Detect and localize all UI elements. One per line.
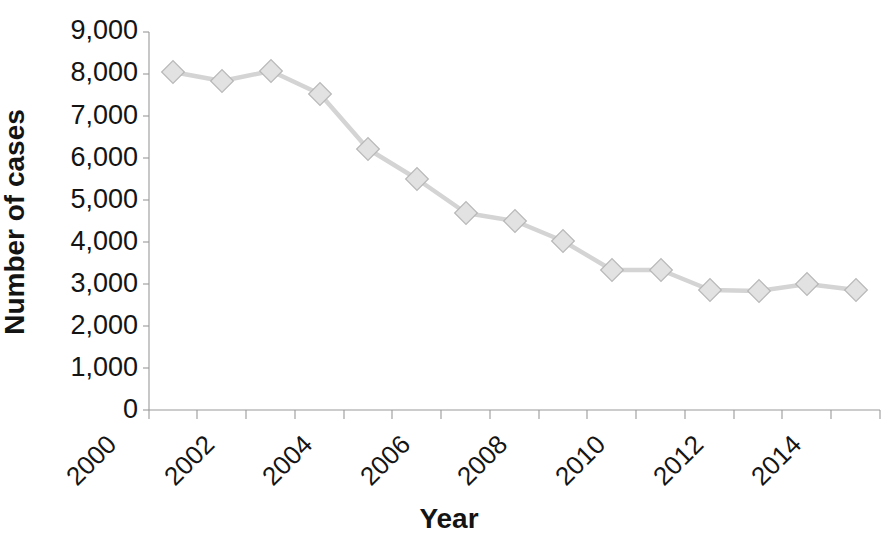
chart-container: Number of cases 0 1,000 2,000 3,000 4,00… (0, 0, 885, 556)
data-point-marker (796, 273, 819, 296)
x-tick-label: 2000 (60, 429, 122, 491)
y-tick-label: 5,000 (70, 184, 138, 214)
y-tick-labels: 0 1,000 2,000 3,000 4,000 5,000 6,000 7,… (70, 15, 138, 424)
x-tick-label: 2002 (158, 429, 220, 491)
data-point-marker (552, 230, 575, 253)
x-tick-label: 2008 (451, 429, 513, 491)
y-tick-label: 7,000 (70, 100, 138, 130)
data-point-marker (504, 210, 527, 233)
y-tick-label: 0 (123, 394, 138, 424)
y-tick-label: 4,000 (70, 226, 138, 256)
x-tick-label: 2012 (647, 429, 709, 491)
y-tick-label: 3,000 (70, 268, 138, 298)
data-point-marker (162, 61, 185, 84)
y-axis-ticks (143, 32, 149, 410)
data-point-marker (699, 279, 722, 302)
x-tick-label: 2014 (745, 429, 807, 491)
y-tick-label: 6,000 (70, 142, 138, 172)
y-axis-title-text: Number of cases (0, 109, 30, 335)
y-tick-label: 1,000 (70, 352, 138, 382)
clipped-caption-strip (0, 548, 885, 556)
data-point-marker (748, 280, 771, 303)
data-point-marker (260, 60, 283, 83)
x-tick-label: 2006 (354, 429, 416, 491)
x-axis-ticks (149, 410, 880, 419)
data-point-marker (845, 279, 868, 302)
x-axis-title-text: Year (419, 503, 478, 534)
x-tick-label: 2004 (256, 429, 318, 491)
y-axis-title: Number of cases (0, 109, 30, 335)
y-tick-label: 2,000 (70, 310, 138, 340)
data-series-line (173, 71, 856, 291)
x-tick-label: 2010 (549, 429, 611, 491)
x-tick-labels: 2000 2002 2004 2006 2008 2010 2012 2014 (60, 429, 807, 491)
data-markers (162, 60, 868, 303)
data-point-marker (601, 259, 624, 282)
data-point-marker (211, 70, 234, 93)
y-tick-label: 8,000 (70, 57, 138, 87)
y-tick-label: 9,000 (70, 15, 138, 45)
data-point-marker (650, 259, 673, 282)
line-chart: Number of cases 0 1,000 2,000 3,000 4,00… (0, 0, 885, 556)
